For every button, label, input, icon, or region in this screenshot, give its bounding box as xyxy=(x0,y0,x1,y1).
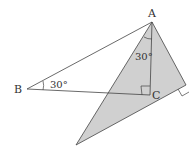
label-C: C xyxy=(152,89,160,102)
label-B: B xyxy=(14,83,22,96)
angle-label-B: 30° xyxy=(50,79,68,90)
angle-label-A: 30° xyxy=(135,51,153,62)
right-angle-marker-D xyxy=(175,91,181,97)
label-A: A xyxy=(147,7,157,20)
angle-arc-B xyxy=(43,81,44,90)
right-angle-marker-D-shape xyxy=(178,89,189,96)
shaded-triangle xyxy=(76,22,186,145)
geometry-diagram: A B C 30° 30° xyxy=(0,0,192,155)
